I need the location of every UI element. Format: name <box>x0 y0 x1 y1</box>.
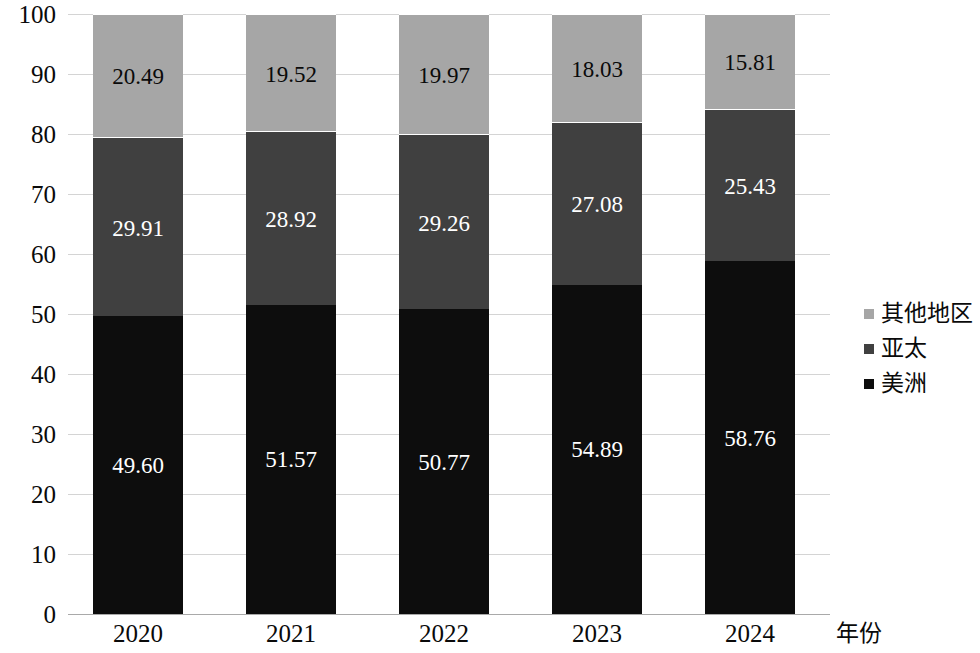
legend-item-label: 美洲 <box>881 372 927 395</box>
y-axis-tick-label: 100 <box>0 2 56 27</box>
x-axis-title: 年份 <box>836 622 882 645</box>
legend-item-label: 其他地区 <box>881 302 973 325</box>
y-axis-tick-label: 40 <box>0 362 56 387</box>
plot-area: 49.6029.9120.4951.5728.9219.5250.7729.26… <box>68 14 830 614</box>
bar-value-label: 50.77 <box>399 451 489 474</box>
bar-value-label: 28.92 <box>246 208 336 231</box>
y-axis-tick-label: 80 <box>0 122 56 147</box>
bar-value-label: 27.08 <box>552 193 642 216</box>
bar-segment[interactable]: 25.43 <box>705 109 795 262</box>
bar-segment[interactable]: 18.03 <box>552 14 642 122</box>
x-axis-tick-label: 2023 <box>537 621 657 646</box>
bar-value-label: 29.26 <box>399 212 489 235</box>
bar-group[interactable]: 50.7729.2619.97 <box>399 14 489 614</box>
bar-value-label: 58.76 <box>705 427 795 450</box>
y-axis-tick-label: 70 <box>0 182 56 207</box>
legend-item-label: 亚太 <box>881 337 927 360</box>
bar-segment[interactable]: 20.49 <box>93 14 183 137</box>
legend-item[interactable]: 美洲 <box>864 366 976 401</box>
bar-segment[interactable]: 49.60 <box>93 316 183 614</box>
y-axis-tick-label: 10 <box>0 542 56 567</box>
x-axis-tick-label: 2022 <box>384 621 504 646</box>
bar-group[interactable]: 54.8927.0818.03 <box>552 14 642 614</box>
bar-segment[interactable]: 15.81 <box>705 14 795 109</box>
bar-value-label: 49.60 <box>93 454 183 477</box>
bar-group[interactable]: 49.6029.9120.49 <box>93 14 183 614</box>
bar-segment[interactable]: 51.57 <box>246 305 336 614</box>
bar-segment[interactable]: 19.52 <box>246 14 336 131</box>
gridline <box>68 614 830 615</box>
legend-item[interactable]: 亚太 <box>864 331 976 366</box>
bar-value-label: 20.49 <box>93 65 183 88</box>
y-axis-tick-labels: 0102030405060708090100 <box>0 0 58 653</box>
y-axis-tick-label: 90 <box>0 62 56 87</box>
legend: 其他地区亚太美洲 <box>864 296 976 401</box>
y-axis-tick-label: 30 <box>0 422 56 447</box>
bar-value-label: 29.91 <box>93 217 183 240</box>
x-axis-tick-label: 2020 <box>78 621 198 646</box>
bar-segment[interactable]: 29.91 <box>93 137 183 316</box>
x-axis-tick-label: 2021 <box>231 621 351 646</box>
bar-value-label: 19.52 <box>246 63 336 86</box>
legend-swatch-icon <box>864 379 874 389</box>
bar-value-label: 19.97 <box>399 64 489 87</box>
bar-group[interactable]: 51.5728.9219.52 <box>246 14 336 614</box>
y-axis-tick-label: 60 <box>0 242 56 267</box>
bar-segment[interactable]: 27.08 <box>552 122 642 284</box>
bar-segment[interactable]: 19.97 <box>399 14 489 134</box>
legend-item[interactable]: 其他地区 <box>864 296 976 331</box>
bar-segment[interactable]: 50.77 <box>399 309 489 614</box>
bar-value-label: 25.43 <box>705 175 795 198</box>
bar-segment[interactable]: 54.89 <box>552 285 642 614</box>
legend-swatch-icon <box>864 309 874 319</box>
bar-segment[interactable]: 29.26 <box>399 134 489 310</box>
bar-value-label: 54.89 <box>552 438 642 461</box>
y-axis-tick-label: 0 <box>0 602 56 627</box>
bar-segment[interactable]: 58.76 <box>705 261 795 614</box>
bar-value-label: 51.57 <box>246 448 336 471</box>
legend-swatch-icon <box>864 344 874 354</box>
bar-segment[interactable]: 28.92 <box>246 131 336 305</box>
bar-group[interactable]: 58.7625.4315.81 <box>705 14 795 614</box>
stacked-bar-chart: 0102030405060708090100 49.6029.9120.4951… <box>0 0 980 653</box>
x-axis-tick-label: 2024 <box>690 621 810 646</box>
y-axis-tick-label: 50 <box>0 302 56 327</box>
y-axis-tick-label: 20 <box>0 482 56 507</box>
bar-value-label: 18.03 <box>552 58 642 81</box>
bar-value-label: 15.81 <box>705 51 795 74</box>
